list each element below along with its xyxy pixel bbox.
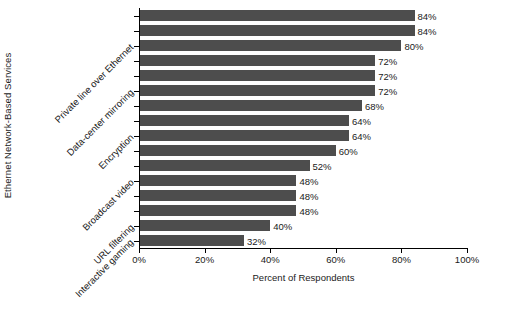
bar <box>139 25 415 36</box>
category-label: Private line over Ethernet <box>52 42 135 125</box>
x-axis-tick-label: 80% <box>392 254 411 265</box>
x-axis-tick-label: 20% <box>195 254 214 265</box>
x-axis-tick-label: 60% <box>326 254 345 265</box>
bar-row: 32% <box>139 235 467 246</box>
x-axis-tick <box>270 249 271 253</box>
y-axis-title: Ethernet Network-Based Services <box>0 0 16 250</box>
bar <box>139 190 296 201</box>
bar-value-label: 32% <box>244 235 266 246</box>
bar-value-label: 52% <box>310 160 332 171</box>
bar-row: 84% <box>139 25 467 36</box>
bar-row: 68% <box>139 100 467 111</box>
bar-row: 48% <box>139 205 467 216</box>
bar-row: 60% <box>139 145 467 156</box>
bar <box>139 55 375 66</box>
bar <box>139 70 375 81</box>
y-axis-tick <box>134 76 139 77</box>
bar-value-label: 64% <box>349 130 371 141</box>
x-axis-tick <box>401 249 402 253</box>
bar-row: 64% <box>139 115 467 126</box>
y-axis-tick <box>134 91 139 92</box>
y-axis-tick <box>134 46 139 47</box>
bar <box>139 130 349 141</box>
x-axis-title: Percent of Respondents <box>139 272 468 283</box>
y-axis-tick <box>134 61 139 62</box>
y-axis-tick <box>134 211 139 212</box>
category-label: Encryption <box>96 132 136 172</box>
y-axis-tick <box>134 196 139 197</box>
bar-row: 80% <box>139 40 467 51</box>
bar-row: 40% <box>139 220 467 231</box>
bar <box>139 175 296 186</box>
bar-row: 48% <box>139 175 467 186</box>
y-axis-tick <box>134 241 139 242</box>
bar-value-label: 84% <box>415 25 437 36</box>
bar-value-label: 68% <box>362 100 384 111</box>
bar <box>139 85 375 96</box>
y-axis-tick <box>134 106 139 107</box>
bar <box>139 220 270 231</box>
x-axis-tick-label: 0% <box>132 254 146 265</box>
bar <box>139 205 296 216</box>
y-axis-tick <box>134 121 139 122</box>
x-axis-tick <box>205 249 206 253</box>
y-axis-tick <box>134 151 139 152</box>
bar-value-label: 72% <box>375 85 397 96</box>
bar-value-label: 72% <box>375 70 397 81</box>
bar-row: 72% <box>139 55 467 66</box>
bar <box>139 10 415 21</box>
bar-value-label: 64% <box>349 115 371 126</box>
bar-value-label: 72% <box>375 55 397 66</box>
y-axis-tick <box>134 31 139 32</box>
bar-value-label: 48% <box>296 190 318 201</box>
bar-row: 72% <box>139 85 467 96</box>
bar-value-label: 40% <box>270 220 292 231</box>
bar <box>139 235 244 246</box>
bar <box>139 115 349 126</box>
y-axis-line <box>139 8 140 249</box>
bar <box>139 160 310 171</box>
y-axis-title-text: Ethernet Network-Based Services <box>3 52 14 198</box>
bar-row: 72% <box>139 70 467 81</box>
bar-chart: Ethernet Network-Based Services 84%84%80… <box>0 0 508 320</box>
bar <box>139 40 401 51</box>
bar-row: 64% <box>139 130 467 141</box>
y-axis-tick <box>134 226 139 227</box>
bar-row: 48% <box>139 190 467 201</box>
y-axis-tick <box>134 16 139 17</box>
x-axis-tick <box>336 249 337 253</box>
bar-value-label: 60% <box>336 145 358 156</box>
bar <box>139 100 362 111</box>
y-axis-tick <box>134 166 139 167</box>
bar <box>139 145 336 156</box>
x-axis-tick-label: 40% <box>261 254 280 265</box>
y-axis-tick <box>134 181 139 182</box>
x-axis-line <box>139 248 468 249</box>
bar-row: 84% <box>139 10 467 21</box>
y-axis-tick <box>134 136 139 137</box>
x-axis-tick-label: 100% <box>455 254 479 265</box>
x-axis-tick <box>139 249 140 253</box>
x-axis-tick <box>467 249 468 253</box>
bar-value-label: 84% <box>415 10 437 21</box>
bar-row: 52% <box>139 160 467 171</box>
bar-value-label: 48% <box>296 175 318 186</box>
bar-value-label: 48% <box>296 205 318 216</box>
plot-area: 84%84%80%72%72%72%68%64%64%60%52%48%48%4… <box>139 8 467 248</box>
bar-value-label: 80% <box>401 40 423 51</box>
